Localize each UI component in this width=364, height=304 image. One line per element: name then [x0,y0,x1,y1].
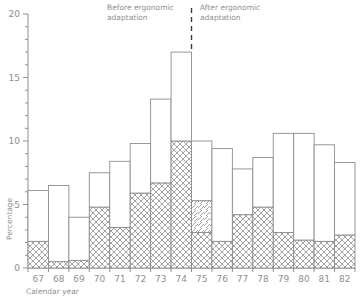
bar-76 [212,149,232,268]
bar-segment [28,191,48,242]
bar-segment [69,217,89,260]
x-axis: 67686970717273747576777879808182 [28,268,355,284]
chart-container: 05101520 6768697071727374757677787980818… [0,0,364,304]
x-tick-label: 71 [114,274,125,284]
bar-segment [192,232,212,268]
bar-segment [192,141,212,201]
bar-segment [192,201,212,233]
bar-segment [130,144,150,194]
bar-segment [171,141,191,268]
x-tick-label: 75 [196,274,207,284]
bar-segment [273,232,293,268]
y-tick-label: 15 [9,73,20,83]
bar-segment [212,149,232,242]
before-label-line2: adaptation [107,13,148,22]
x-tick-label: 82 [339,274,350,284]
bar-67 [28,191,48,268]
stacked-bar-chart: 05101520 6768697071727374757677787980818… [0,0,364,304]
bar-73 [151,99,171,268]
x-tick-label: 80 [298,274,310,284]
bar-segment [314,145,334,242]
bar-segment [151,99,171,183]
bar-70 [89,173,109,268]
bar-segment [232,169,252,215]
x-tick-label: 73 [155,274,166,284]
bar-segment [48,185,68,261]
bar-72 [130,144,150,268]
bar-segment [294,240,314,268]
y-tick-label: 0 [14,263,20,273]
x-tick-label: 78 [257,274,269,284]
bar-segment [314,241,334,268]
after-label-line2: adaptation [200,13,241,22]
x-tick-label: 79 [278,274,290,284]
bar-segment [294,133,314,240]
x-tick-label: 70 [94,274,106,284]
bar-segment [110,161,130,227]
bar-71 [110,161,130,268]
bar-segment [335,235,355,268]
bar-segment [171,52,191,141]
after-label: After ergonomic [200,3,260,12]
bar-77 [232,169,252,268]
bar-segment [130,193,150,268]
x-axis-title: Calendar year [26,287,80,296]
bar-69 [69,217,89,268]
bar-segment [253,207,273,268]
bar-79 [273,133,293,268]
y-tick-label: 5 [14,200,20,210]
bar-segment [253,158,273,208]
bar-segment [335,163,355,235]
bar-78 [253,158,273,268]
before-label: Before ergonomic [107,3,174,12]
bars-group [28,52,355,268]
x-tick-label: 81 [319,274,330,284]
y-tick-label: 10 [9,136,21,146]
bar-segment [89,207,109,268]
bar-68 [48,185,68,268]
bar-segment [69,260,89,268]
x-tick-label: 76 [216,274,228,284]
bar-segment [212,241,232,268]
bar-segment [232,215,252,268]
bar-74 [171,52,191,268]
bar-segment [48,262,68,268]
bar-75 [192,141,212,268]
bar-82 [335,163,355,268]
annotations-group: Before ergonomicadaptationAfter ergonomi… [107,3,260,22]
y-tick-label: 20 [9,9,21,19]
x-tick-label: 77 [237,274,248,284]
x-tick-label: 74 [176,274,188,284]
bar-segment [151,183,171,268]
x-tick-label: 72 [135,274,146,284]
bar-segment [273,133,293,232]
x-tick-label: 69 [73,274,85,284]
bar-segment [28,241,48,268]
bar-80 [294,133,314,268]
bar-81 [314,145,334,268]
bar-segment [110,227,130,268]
x-tick-label: 68 [53,274,65,284]
y-axis-title: Percentage [5,197,14,240]
x-tick-label: 67 [32,274,43,284]
bar-segment [89,173,109,207]
